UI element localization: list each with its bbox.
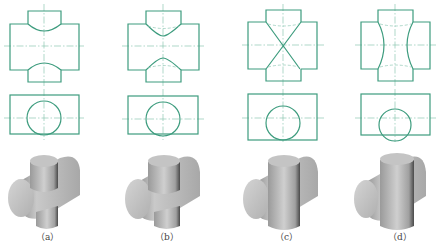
solid-model-b (125, 155, 200, 229)
front-view-c (242, 4, 324, 88)
solid-model-c (243, 155, 318, 230)
side-view-b (122, 89, 204, 140)
side-view-c (242, 89, 324, 142)
side-view-d (355, 89, 436, 142)
panel-a: （a） (4, 4, 84, 242)
panel-label-d: （d） (388, 232, 412, 242)
panel-label-a: （a） (36, 232, 59, 242)
solid-model-d (354, 153, 426, 230)
front-view-b (122, 4, 204, 88)
panel-label-c: （c） (275, 232, 298, 242)
panel-c: （c） (242, 4, 324, 242)
front-view-d (355, 4, 436, 88)
panel-d: （d） (354, 4, 436, 242)
side-view-a (4, 89, 84, 140)
panel-b: （b） (122, 4, 204, 242)
cylinder-intersection-figure: （a） （b） (0, 0, 440, 249)
front-view-a (4, 4, 84, 88)
solid-model-a (8, 155, 80, 229)
panel-label-b: （b） (155, 232, 179, 242)
